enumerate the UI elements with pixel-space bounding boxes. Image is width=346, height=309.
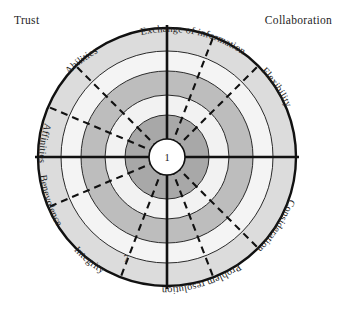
scale-outer-label: 7 — [123, 253, 128, 264]
diagram-root: Trust Collaboration — [0, 0, 346, 309]
concentric-circle-chart: 1 7 Abilities Exchange of information Fl… — [0, 0, 346, 309]
center-value-label: 1 — [164, 152, 169, 163]
